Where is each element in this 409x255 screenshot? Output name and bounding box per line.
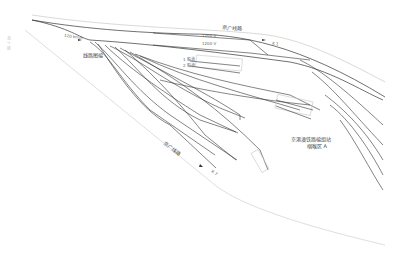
top-right-marker-label: K 1 bbox=[272, 41, 279, 46]
siding-track-1 bbox=[190, 61, 240, 66]
platform-box-3 bbox=[251, 149, 269, 172]
track-diagram bbox=[0, 0, 409, 255]
yard-name-label: 线路图编 bbox=[83, 53, 103, 58]
arrow-bottom-line bbox=[199, 164, 203, 167]
station-name-line1: 京港澳铁路编组站 bbox=[291, 137, 331, 142]
top-speed-label-1: 1200 V bbox=[202, 34, 216, 38]
track-top-short-2 bbox=[153, 45, 310, 60]
siding-track-2 bbox=[190, 66, 240, 73]
top-speed-label-2: 1200 V bbox=[202, 42, 216, 46]
siding-2-label: 2 股道 bbox=[183, 64, 195, 68]
upper-boundary-line bbox=[32, 15, 385, 82]
station-name-line2: 咽喉区 A bbox=[307, 144, 327, 149]
siding-1-label: 1 股道 bbox=[183, 58, 195, 62]
platform-box-1 bbox=[196, 55, 243, 71]
main-track-1 bbox=[32, 20, 385, 97]
arrow-top-line bbox=[262, 39, 266, 41]
side-vertical-label: 北 ↑ 区 bbox=[6, 36, 10, 50]
